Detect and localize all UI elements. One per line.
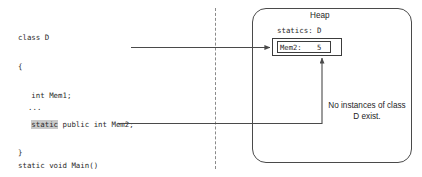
code-line: static void Main() — [18, 161, 147, 171]
code-ellipsis: ... — [18, 103, 147, 113]
dashed-divider — [215, 8, 216, 169]
main-method-code: ... static void Main() { D.Mem2 = 5; Con… — [18, 84, 147, 177]
mem2-field-name: Mem2: — [280, 43, 302, 52]
heap-region-box — [252, 8, 412, 163]
mem2-field-value: 5 — [317, 43, 321, 52]
no-instances-note: No instances of class D exist. — [325, 100, 409, 122]
code-line: { — [18, 62, 134, 72]
diagram-canvas: class D { int Mem1; static public int Me… — [0, 0, 422, 177]
heap-label: Heap — [310, 11, 330, 20]
code-blank — [18, 132, 147, 142]
code-line: class D — [18, 33, 134, 43]
statics-label: statics: D — [277, 26, 322, 35]
